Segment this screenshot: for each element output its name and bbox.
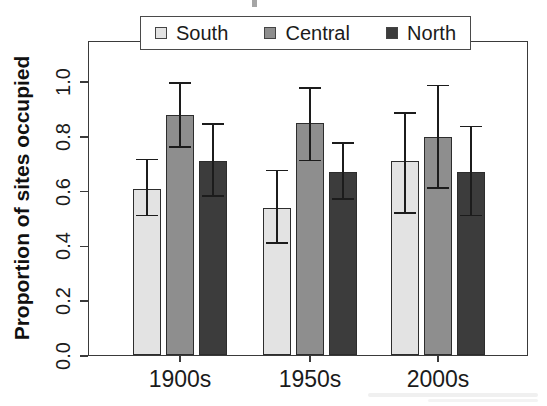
error-cap-top-north-1900s: [202, 123, 224, 125]
x-tick-label: 2000s: [407, 366, 470, 393]
x-axis-tick: [437, 355, 439, 362]
legend-swatch-north: [386, 27, 398, 39]
error-bar-central-1900s: [179, 82, 181, 148]
legend-item-north: North: [386, 22, 456, 45]
error-cap-top-south-2000s: [394, 112, 416, 114]
y-axis-tick: [80, 136, 88, 138]
error-cap-bottom-central-1900s: [169, 146, 191, 148]
y-axis-title: Proportion of sites occupied: [10, 56, 34, 341]
error-cap-top-north-2000s: [460, 126, 482, 128]
y-tick-label: 0.8: [52, 123, 75, 151]
error-cap-bottom-central-2000s: [427, 187, 449, 189]
figure-canvas: Proportion of sites occupied 0.00.20.40.…: [0, 0, 547, 406]
y-tick-label: 0.2: [52, 287, 75, 315]
error-cap-bottom-south-1900s: [136, 215, 158, 217]
x-axis-tick: [309, 355, 311, 362]
y-tick-label: 1.0: [52, 68, 75, 96]
scan-bleed-artifact: [428, 399, 538, 402]
y-axis-tick: [80, 81, 88, 83]
error-bar-central-2000s: [437, 85, 439, 189]
y-tick-label: 0.6: [52, 178, 75, 206]
error-cap-bottom-south-2000s: [394, 212, 416, 214]
y-axis-tick: [80, 191, 88, 193]
error-cap-bottom-central-1950s: [299, 160, 321, 162]
bar-central-1900s: [166, 115, 194, 355]
error-cap-top-south-1950s: [266, 170, 288, 172]
legend-label-north: North: [407, 22, 456, 45]
y-tick-label: 0.0: [52, 342, 75, 370]
error-bar-north-2000s: [470, 126, 472, 216]
error-cap-top-north-1950s: [332, 142, 354, 144]
error-cap-top-central-1950s: [299, 87, 321, 89]
legend: SouthCentralNorth: [140, 16, 471, 50]
error-cap-bottom-south-1950s: [266, 242, 288, 244]
error-bar-north-1900s: [212, 123, 214, 197]
error-bar-central-1950s: [309, 87, 311, 161]
legend-item-south: South: [155, 22, 228, 45]
error-bar-north-1950s: [342, 142, 344, 200]
error-cap-top-south-1900s: [136, 159, 158, 161]
y-axis-tick: [80, 355, 88, 357]
legend-label-central: Central: [285, 22, 349, 45]
cropped-title-fragment: [252, 0, 257, 7]
error-cap-top-central-2000s: [427, 85, 449, 87]
y-axis-tick: [80, 246, 88, 248]
x-tick-label: 1950s: [279, 366, 342, 393]
y-axis-tick: [80, 300, 88, 302]
error-bar-south-1900s: [146, 159, 148, 217]
error-cap-bottom-north-1950s: [332, 198, 354, 200]
error-cap-bottom-north-1900s: [202, 195, 224, 197]
legend-swatch-south: [155, 27, 167, 39]
x-axis-tick: [179, 355, 181, 362]
error-bar-south-2000s: [404, 112, 406, 213]
error-cap-bottom-north-2000s: [460, 215, 482, 217]
error-cap-top-central-1900s: [169, 82, 191, 84]
y-tick-label: 0.4: [52, 232, 75, 260]
legend-swatch-central: [264, 27, 276, 39]
legend-label-south: South: [176, 22, 228, 45]
legend-item-central: Central: [264, 22, 349, 45]
scan-bleed-artifact: [368, 393, 538, 397]
error-bar-south-1950s: [276, 170, 278, 244]
x-tick-label: 1900s: [149, 366, 212, 393]
